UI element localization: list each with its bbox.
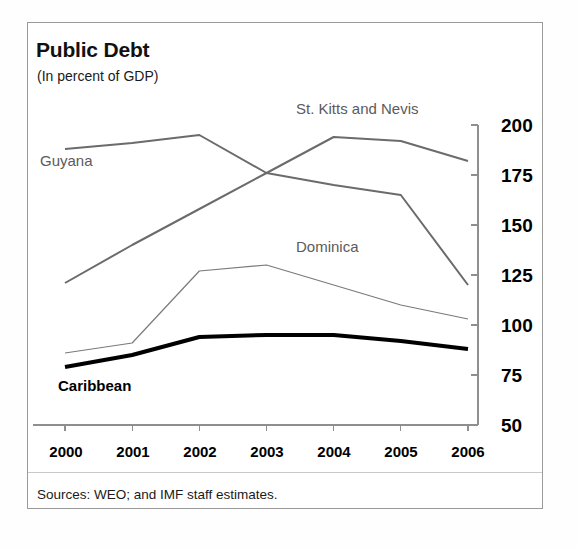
x-tick-label-2005: 2005	[373, 443, 429, 460]
series-label-caribbean: Caribbean	[58, 377, 131, 394]
y-tick-label-125: 125	[501, 265, 533, 287]
series-label-st-kitts-and-nevis: St. Kitts and Nevis	[296, 100, 419, 117]
chart-subtitle: (In percent of GDP)	[37, 68, 158, 84]
y-tick-label-100: 100	[501, 315, 533, 337]
chart-frame-border	[27, 22, 543, 509]
page-title: Public Debt	[36, 38, 149, 62]
x-tick-label-2001: 2001	[105, 443, 161, 460]
x-tick-label-2003: 2003	[239, 443, 295, 460]
y-tick-label-175: 175	[501, 165, 533, 187]
series-label-guyana: Guyana	[40, 152, 93, 169]
x-tick-label-2006: 2006	[440, 443, 496, 460]
y-tick-label-150: 150	[501, 215, 533, 237]
chart-figure: Public Debt (In percent of GDP) 200 175 …	[0, 0, 578, 548]
y-tick-label-50: 50	[501, 415, 522, 437]
source-note: Sources: WEO; and IMF staff estimates.	[37, 487, 278, 502]
x-tick-label-2004: 2004	[306, 443, 362, 460]
x-tick-label-2002: 2002	[172, 443, 228, 460]
y-tick-label-75: 75	[501, 365, 522, 387]
source-divider	[28, 472, 542, 473]
y-tick-label-200: 200	[501, 115, 533, 137]
x-tick-label-2000: 2000	[38, 443, 94, 460]
series-label-dominica: Dominica	[296, 238, 359, 255]
